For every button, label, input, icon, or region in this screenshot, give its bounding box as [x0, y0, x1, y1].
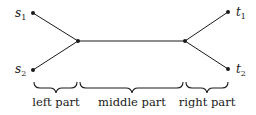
graph-diagram: s1 s2 t1 t2 left part middle part right … [0, 0, 256, 115]
label-s1: s1 [15, 6, 26, 22]
edge-right-junction-t2 [185, 41, 228, 69]
edge-s2-left-junction [33, 41, 78, 70]
brace-right-icon [186, 82, 228, 93]
node-s1 [31, 11, 35, 15]
node-s2 [31, 68, 35, 72]
edges [33, 12, 228, 70]
label-t1: t1 [236, 5, 246, 21]
brace-left-icon [34, 82, 77, 93]
brace-middle-icon [80, 82, 183, 93]
braces [34, 82, 228, 93]
label-t2: t2 [236, 62, 246, 78]
label-left-part: left part [32, 95, 80, 109]
node-t2 [226, 67, 230, 71]
node-t1 [226, 10, 230, 14]
node-right-junction [183, 39, 187, 43]
edge-right-junction-t1 [185, 12, 228, 41]
node-left-junction [76, 39, 80, 43]
label-s2: s2 [15, 62, 26, 78]
edge-s1-left-junction [33, 13, 78, 41]
label-middle-part: middle part [98, 95, 166, 109]
label-right-part: right part [179, 95, 236, 109]
